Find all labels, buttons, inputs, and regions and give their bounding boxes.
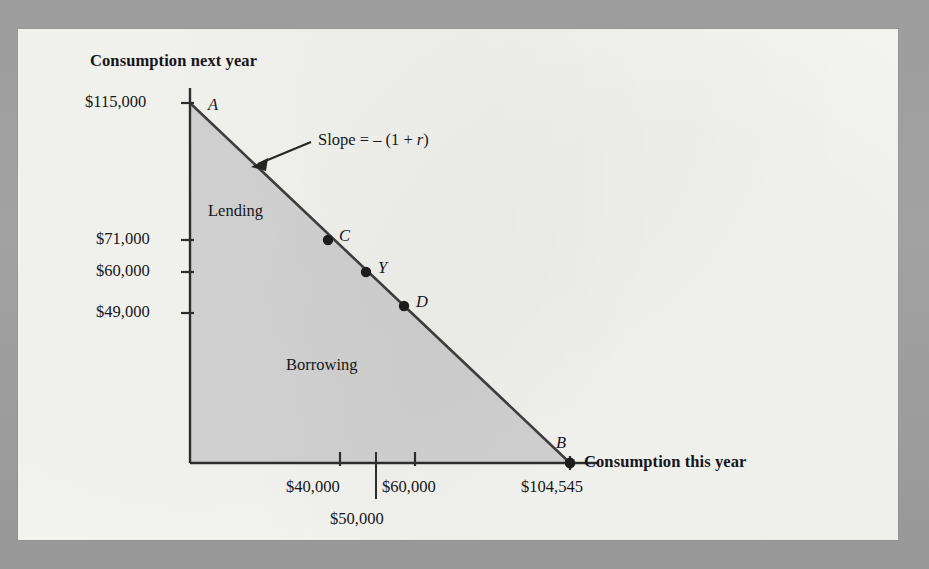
region-label-borrowing: Borrowing [286,355,358,375]
x-tick-label-40000: $40,000 [286,477,340,497]
region-label-lending: Lending [208,201,263,221]
slope-annotation-label: Slope = – (1 + r) [318,130,429,150]
plot-canvas [18,29,898,540]
y-axis-title: Consumption next year [90,51,257,71]
slope-annotation-suffix: ) [423,130,429,149]
point-label-b: B [556,433,566,453]
y-tick-label-71000: $71,000 [96,229,150,249]
data-point-y [361,267,371,277]
x-tick-label-104545: $104,545 [521,477,583,497]
data-point-b [565,458,576,469]
data-point-d [399,301,409,311]
point-label-c: C [339,226,350,246]
budget-constraint-figure: Consumption next year Consumption this y… [18,29,898,540]
point-label-d: D [416,292,428,312]
point-label-a: A [208,95,218,115]
y-tick-label-49000: $49,000 [96,302,150,322]
point-label-y: Y [378,258,387,278]
slope-annotation-prefix: Slope = – (1 + [318,130,417,149]
y-tick-label-115000: $115,000 [85,92,146,112]
page-surface: Consumption next year Consumption this y… [18,29,898,540]
x-axis-title: Consumption this year [584,452,747,472]
data-point-c [323,235,333,245]
x-tick-label-50000: $50,000 [330,509,384,529]
figure-screenshot: Consumption next year Consumption this y… [0,0,929,569]
x-tick-label-60000: $60,000 [382,477,436,497]
y-tick-label-60000: $60,000 [96,261,150,281]
